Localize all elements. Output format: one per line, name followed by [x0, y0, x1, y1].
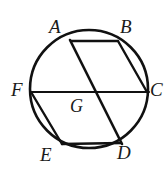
point-label-c: C	[150, 80, 163, 99]
segment-FE	[31, 92, 62, 144]
point-label-e: E	[40, 145, 52, 164]
segment-ED	[62, 143, 121, 144]
point-label-f: F	[11, 80, 23, 99]
main-circle	[30, 30, 148, 148]
point-label-a: A	[49, 17, 61, 36]
point-label-g: G	[70, 97, 83, 115]
geometry-figure: A B C D E F G	[0, 0, 164, 176]
point-label-b: B	[120, 17, 132, 36]
geometry-canvas	[0, 0, 164, 176]
point-label-d: D	[117, 143, 131, 162]
